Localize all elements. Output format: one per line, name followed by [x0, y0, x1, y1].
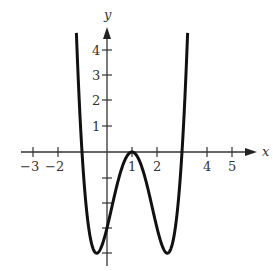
function-curve: [76, 33, 187, 253]
svg-text:4: 4: [92, 43, 100, 58]
svg-text:2: 2: [153, 159, 161, 174]
svg-text:3: 3: [92, 68, 100, 83]
x-axis-label: x: [262, 144, 270, 159]
y-axis-arrow-icon: [103, 27, 111, 39]
svg-text:−2: −2: [45, 159, 64, 174]
y-axis-label: y: [103, 7, 112, 22]
x-axis-arrow-icon: [245, 148, 257, 156]
svg-text:1: 1: [92, 119, 100, 134]
svg-text:5: 5: [228, 159, 236, 174]
svg-text:1: 1: [128, 159, 136, 174]
function-graph: x y −3 −2 1 2 4 5 4 3 2 1: [0, 0, 273, 271]
svg-text:−3: −3: [20, 159, 39, 174]
y-tick-labels: 4 3 2 1: [92, 43, 100, 134]
x-tick-labels: −3 −2 1 2 4 5: [20, 159, 236, 174]
svg-text:4: 4: [203, 159, 211, 174]
svg-text:2: 2: [92, 93, 100, 108]
